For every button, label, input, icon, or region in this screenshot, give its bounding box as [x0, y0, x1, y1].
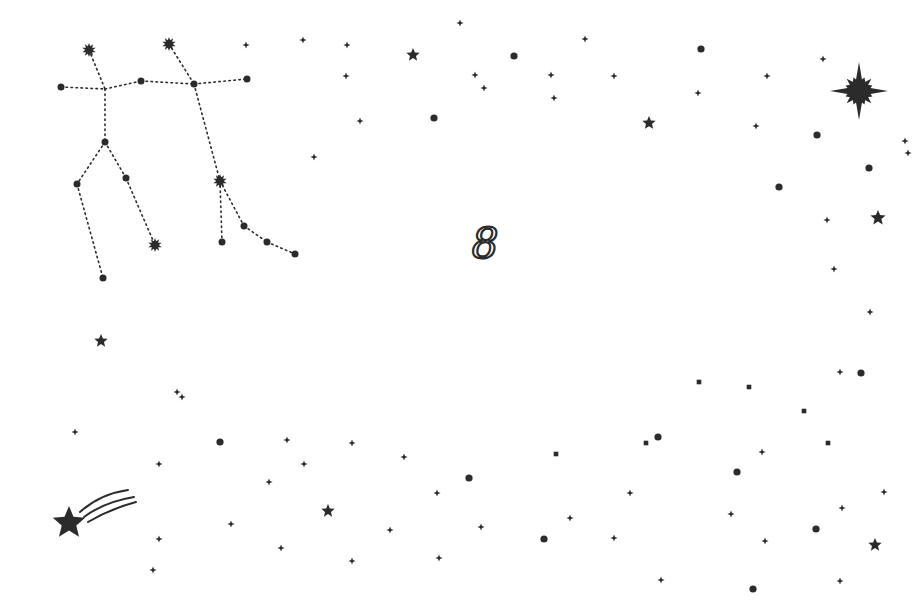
sparkle-icon — [435, 554, 442, 561]
constellation-line — [194, 84, 220, 181]
star-dot-icon — [857, 369, 864, 376]
star-dot-icon — [138, 78, 145, 85]
sparkle-icon — [342, 72, 349, 79]
sparkle-icon — [904, 149, 911, 156]
sparkle-icon — [694, 89, 701, 96]
star-dot-icon — [74, 181, 81, 188]
sparkle-icon — [242, 41, 249, 48]
constellation-line — [267, 242, 295, 254]
star-field — [71, 19, 911, 592]
square-star-icon — [554, 452, 559, 457]
star-icon — [642, 116, 655, 129]
star-dot-icon — [219, 239, 226, 246]
star-icon — [321, 504, 334, 517]
star-dot-icon — [292, 251, 299, 258]
sparkle-icon — [348, 439, 355, 446]
gemini-constellation-illustration: 8 — [0, 0, 919, 609]
star-dot-icon — [812, 525, 819, 532]
sparkle-icon — [356, 117, 363, 124]
sparkle-icon — [265, 478, 272, 485]
star-dot-icon — [264, 239, 271, 246]
sparkle-icon — [836, 577, 843, 584]
sparkle-icon — [480, 84, 487, 91]
star-icon — [868, 538, 881, 551]
sparkle-icon — [657, 576, 664, 583]
sparkle-icon — [610, 534, 617, 541]
constellation-line — [220, 181, 244, 226]
sparkle-icon — [433, 489, 440, 496]
square-star-icon — [747, 385, 752, 390]
sparkle-icon — [471, 71, 478, 78]
sparkle-icon — [823, 216, 830, 223]
constellation-line — [194, 79, 247, 84]
star-icon — [94, 334, 107, 347]
constellation-line — [77, 142, 105, 184]
constellation-line — [89, 50, 105, 89]
star-icon — [870, 210, 885, 225]
starburst-icon — [162, 37, 175, 51]
sparkle-icon — [386, 526, 393, 533]
constellation-line — [77, 184, 103, 278]
square-star-icon — [644, 441, 649, 446]
sparkle-icon — [752, 122, 759, 129]
sparkle-icon — [758, 448, 765, 455]
sparkle-icon — [566, 514, 573, 521]
sparkle-icon — [610, 72, 617, 79]
sparkle-icon — [149, 566, 156, 573]
star-icon — [406, 48, 419, 61]
sparkle-icon — [901, 137, 908, 144]
sparkle-icon — [581, 35, 588, 42]
sparkle-icon — [547, 71, 554, 78]
sparkle-icon — [300, 460, 307, 467]
sparkle-icon — [819, 55, 826, 62]
sparkle-icon — [343, 41, 350, 48]
star-dot-icon — [241, 223, 248, 230]
star-dot-icon — [430, 114, 437, 121]
sparkle-icon — [155, 460, 162, 467]
sparkle-icon — [761, 537, 768, 544]
star-dot-icon — [697, 45, 704, 52]
sparkle-icon — [477, 523, 484, 530]
star-dot-icon — [813, 131, 820, 138]
constellation-line — [61, 87, 105, 89]
starburst-icon — [148, 238, 161, 252]
big-starburst-icon — [830, 62, 888, 120]
star-dot-icon — [123, 175, 130, 182]
star-dot-icon — [865, 164, 872, 171]
sparkle-icon — [299, 36, 306, 43]
star-dot-icon — [102, 139, 109, 146]
starburst-icon — [82, 43, 95, 57]
starburst-icon — [213, 174, 226, 188]
zodiac-symbol: 8 — [472, 219, 499, 268]
constellation-line — [220, 181, 222, 242]
constellation-line — [244, 226, 267, 242]
sparkle-icon — [880, 488, 887, 495]
constellation-line — [126, 178, 155, 245]
star-dot-icon — [540, 535, 547, 542]
star-dot-icon — [733, 468, 740, 475]
sparkle-icon — [227, 520, 234, 527]
constellation-line — [141, 81, 194, 84]
sparkle-icon — [838, 504, 845, 511]
star-dot-icon — [191, 81, 198, 88]
sparkle-icon — [830, 265, 837, 272]
sparkle-icon — [550, 94, 557, 101]
sparkle-icon — [173, 388, 180, 395]
shooting-star-icon — [53, 490, 136, 537]
constellation-lines — [61, 44, 295, 278]
sparkle-icon — [310, 153, 317, 160]
sparkle-icon — [836, 368, 843, 375]
star-dot-icon — [749, 585, 756, 592]
sparkle-icon — [277, 544, 284, 551]
sparkle-icon — [178, 393, 185, 400]
star-dot-icon — [510, 52, 517, 59]
sparkle-icon — [71, 428, 78, 435]
square-star-icon — [802, 409, 807, 414]
star-dot-icon — [654, 433, 661, 440]
star-dot-icon — [775, 183, 782, 190]
star-dot-icon — [58, 84, 65, 91]
sparkle-icon — [155, 535, 162, 542]
sparkle-icon — [626, 489, 633, 496]
square-star-icon — [697, 380, 702, 385]
sparkle-icon — [400, 453, 407, 460]
